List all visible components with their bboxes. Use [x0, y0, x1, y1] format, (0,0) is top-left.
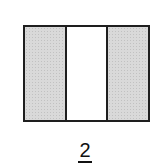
fraction-label: 2 3 [70, 140, 100, 168]
fraction-denominator: 3 [79, 165, 90, 168]
fraction-numerator: 2 [79, 140, 90, 160]
fraction-bar [78, 161, 92, 163]
shaded-part-3 [106, 27, 148, 120]
shaded-part-1 [25, 27, 65, 120]
unshaded-part-2 [65, 27, 107, 120]
fraction-rectangle [23, 25, 150, 122]
